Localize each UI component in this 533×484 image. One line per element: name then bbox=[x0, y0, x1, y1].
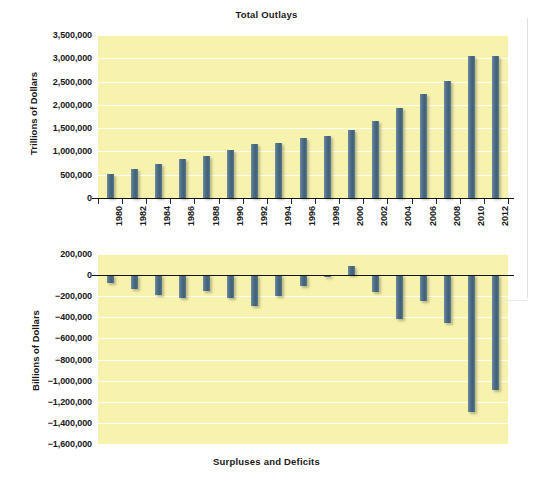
x-tick bbox=[98, 199, 99, 204]
x-tick bbox=[291, 199, 292, 204]
bar bbox=[444, 275, 451, 323]
bar bbox=[203, 156, 210, 198]
bar bbox=[348, 266, 355, 275]
bottom-chart-plot-area bbox=[98, 254, 508, 444]
x-tick-label: 1994 bbox=[283, 206, 293, 226]
bar bbox=[131, 169, 138, 198]
x-tick-label: 2006 bbox=[428, 206, 438, 226]
bottom-chart-zero-axis-line bbox=[92, 275, 514, 276]
bottom-chart-y-tick-labels: 200,0000−200,000−400,000−600,000−800,000… bbox=[0, 0, 92, 200]
bottom-chart-bars bbox=[98, 254, 508, 444]
bar bbox=[275, 143, 282, 198]
bar bbox=[227, 275, 234, 298]
bar bbox=[420, 275, 427, 301]
bar bbox=[155, 275, 162, 295]
x-tick bbox=[146, 199, 147, 204]
x-tick-label: 1980 bbox=[114, 206, 124, 226]
x-tick-label: 1982 bbox=[138, 206, 148, 226]
x-tick-label: 2002 bbox=[379, 206, 389, 226]
x-tick bbox=[484, 199, 485, 204]
x-tick bbox=[387, 199, 388, 204]
x-tick-label: 1998 bbox=[331, 206, 341, 226]
top-chart-x-axis-line bbox=[92, 198, 514, 199]
x-tick bbox=[339, 199, 340, 204]
bottom-chart-caption: Surpluses and Deficits bbox=[0, 456, 533, 467]
bar bbox=[396, 275, 403, 319]
x-tick bbox=[436, 199, 437, 204]
x-tick bbox=[243, 199, 244, 204]
y-tick-label: −200,000 bbox=[55, 291, 92, 301]
x-tick bbox=[219, 199, 220, 204]
x-tick bbox=[363, 199, 364, 204]
bar bbox=[251, 275, 258, 306]
gridline bbox=[98, 444, 508, 445]
bar bbox=[468, 275, 475, 412]
top-chart-plot-area bbox=[98, 35, 508, 198]
bar bbox=[251, 144, 258, 198]
bar bbox=[275, 275, 282, 296]
x-tick bbox=[460, 199, 461, 204]
x-tick bbox=[412, 199, 413, 204]
x-tick-label: 2012 bbox=[500, 206, 510, 226]
bar bbox=[179, 275, 186, 298]
x-tick-label: 2010 bbox=[476, 206, 486, 226]
x-tick-label: 1984 bbox=[162, 206, 172, 226]
x-tick-label: 1988 bbox=[211, 206, 221, 226]
bar bbox=[131, 275, 138, 289]
x-tick bbox=[194, 199, 195, 204]
y-tick-label: −1,000,000 bbox=[48, 376, 92, 386]
x-tick bbox=[315, 199, 316, 204]
x-tick bbox=[508, 199, 509, 204]
bar bbox=[372, 121, 379, 198]
y-tick-label: −1,600,000 bbox=[48, 439, 92, 449]
x-tick-label: 2008 bbox=[452, 206, 462, 226]
bar bbox=[396, 108, 403, 198]
bar bbox=[300, 138, 307, 198]
y-tick-label: −1,400,000 bbox=[48, 418, 92, 428]
bar bbox=[348, 130, 355, 198]
x-tick bbox=[267, 199, 268, 204]
bar bbox=[444, 81, 451, 198]
y-tick-label: −1,200,000 bbox=[48, 397, 92, 407]
bar bbox=[492, 275, 499, 390]
y-tick-label: 200,000 bbox=[60, 249, 92, 259]
bar bbox=[468, 56, 475, 198]
x-tick-label: 2004 bbox=[403, 206, 413, 226]
bar bbox=[492, 56, 499, 198]
x-tick-label: 2000 bbox=[355, 206, 365, 226]
bar bbox=[179, 159, 186, 198]
x-tick bbox=[122, 199, 123, 204]
bar bbox=[324, 136, 331, 198]
bar bbox=[300, 275, 307, 286]
y-tick-label: −400,000 bbox=[55, 312, 92, 322]
bar bbox=[203, 275, 210, 291]
top-chart-bars bbox=[98, 35, 508, 198]
bar bbox=[227, 150, 234, 198]
y-tick-label: −600,000 bbox=[55, 333, 92, 343]
page-edge-rule bbox=[527, 18, 528, 298]
x-tick-label: 1992 bbox=[259, 206, 269, 226]
bar bbox=[155, 164, 162, 198]
page-edge-rule-secondary bbox=[504, 300, 528, 301]
bar bbox=[107, 174, 114, 198]
bar bbox=[420, 94, 427, 198]
x-tick-label: 1986 bbox=[186, 206, 196, 226]
y-tick-label: −800,000 bbox=[55, 355, 92, 365]
x-tick-label: 1990 bbox=[235, 206, 245, 226]
x-tick bbox=[170, 199, 171, 204]
bottom-chart-y-axis-title: Billions of Dollars bbox=[30, 296, 41, 406]
x-tick-label: 1996 bbox=[307, 206, 317, 226]
bar bbox=[372, 275, 379, 292]
